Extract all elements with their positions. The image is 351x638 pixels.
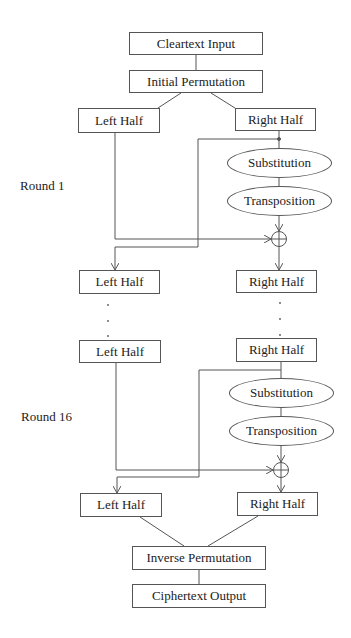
round1-right-half-in: Right Half (235, 108, 316, 131)
round1-left-half-out: Left Half (79, 270, 160, 294)
round16-label: Round 16 (21, 409, 72, 425)
round1-transposition-oval: Transposition (227, 186, 332, 216)
round16-right-half-in: Right Half (236, 338, 317, 362)
round1-substitution-oval: Substitution (227, 148, 332, 178)
inverse-permutation-box: Inverse Permutation (132, 546, 266, 570)
connector-lines (0, 0, 351, 638)
round1-label: Round 1 (20, 178, 64, 194)
ciphertext-output-box: Ciphertext Output (132, 584, 266, 608)
cleartext-input-box: Cleartext Input (129, 32, 263, 55)
round16-transposition-oval: Transposition (229, 416, 334, 446)
round16-substitution-oval: Substitution (229, 378, 334, 408)
round16-right-half-out: Right Half (237, 492, 318, 516)
initial-permutation-box: Initial Permutation (129, 70, 263, 93)
round16-left-half-out: Left Half (80, 493, 162, 517)
round16-left-half-in: Left Half (79, 340, 161, 363)
round1-left-half-in: Left Half (78, 108, 160, 133)
continuation-dots (107, 302, 281, 337)
round1-right-half-out: Right Half (236, 270, 317, 293)
